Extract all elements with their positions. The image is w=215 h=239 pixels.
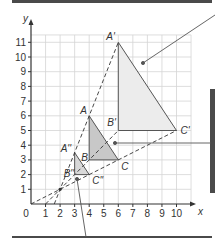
x-axis-arrow-icon: [190, 202, 196, 207]
y-tick-label: 1: [20, 184, 26, 195]
y-tick-label: 9: [20, 66, 26, 77]
callout-dot-reduction: [75, 177, 78, 180]
callout-line-enlargement: [143, 15, 215, 63]
callout-line-reduction: [77, 179, 86, 237]
vertex-label: A: [79, 105, 87, 116]
x-tick-label: 6: [116, 208, 122, 219]
x-tick-label: 3: [72, 208, 78, 219]
y-tick-label: 6: [20, 110, 26, 121]
vertex-label: A': [105, 31, 116, 42]
x-tick-label: 10: [171, 208, 183, 219]
y-tick-label: 7: [20, 96, 26, 107]
x-tick-label: 5: [101, 208, 107, 219]
y-tick-label: 11: [16, 37, 27, 48]
vertex-label: B'': [64, 168, 76, 179]
y-tick-label: 5: [20, 125, 26, 136]
y-tick-label: 8: [20, 81, 26, 92]
y-axis-arrow-icon: [29, 19, 34, 25]
triangles: [75, 42, 177, 174]
y-tick-label: 10: [15, 52, 27, 63]
x-tick-label: 7: [130, 208, 136, 219]
vertex-label: B': [107, 117, 117, 128]
y-axis-label: y: [22, 13, 29, 24]
diagram-stage: 1234567891012345678910110xy ABCA'B'C'A''…: [0, 0, 215, 239]
x-tick-label: 8: [145, 208, 151, 219]
y-tick-label: 4: [20, 140, 26, 151]
centre-of-enlargement-point: [59, 188, 62, 191]
vertex-label: C': [181, 125, 191, 136]
x-tick-label: 9: [159, 208, 165, 219]
x-tick-label: 2: [57, 208, 63, 219]
callout-dot-object: [113, 141, 116, 144]
callout-dot-enlargement: [141, 61, 144, 64]
x-axis-label: x: [197, 206, 204, 217]
vertex-label: C'': [92, 175, 104, 186]
enlargement-graph: 1234567891012345678910110xy ABCA'B'C'A''…: [0, 0, 215, 239]
axes: [29, 19, 197, 207]
x-tick-label: 4: [86, 208, 92, 219]
vertex-label: B: [81, 152, 88, 163]
y-tick-label: 3: [20, 154, 26, 165]
vertex-label: C: [121, 161, 129, 172]
vertex-label: A'': [60, 143, 73, 154]
x-tick-label: 1: [43, 208, 49, 219]
origin-label: 0: [23, 208, 29, 219]
y-tick-label: 2: [20, 169, 26, 180]
